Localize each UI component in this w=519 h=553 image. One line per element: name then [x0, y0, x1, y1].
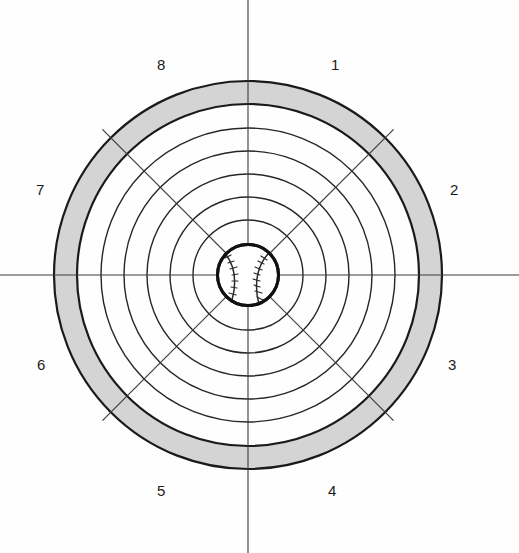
sector-label-6: 6 [37, 357, 45, 372]
sector-label-2-text: 2 [450, 182, 458, 197]
sector-label-7-text: 7 [36, 182, 44, 197]
sector-label-1: 1 [331, 57, 339, 72]
sector-label-7: 7 [36, 182, 44, 197]
sector-label-8: 8 [157, 57, 165, 72]
sector-label-5-text: 5 [157, 483, 165, 498]
sector-label-2: 2 [450, 182, 458, 197]
sector-label-4: 4 [328, 483, 336, 498]
target-diagram [0, 0, 519, 553]
sector-label-5: 5 [157, 483, 165, 498]
sector-label-3-text: 3 [448, 357, 456, 372]
sector-label-8-text: 8 [157, 57, 165, 72]
sector-label-1-text: 1 [331, 57, 339, 72]
sector-label-4-text: 4 [328, 483, 336, 498]
sector-label-6-text: 6 [37, 357, 45, 372]
sector-label-3: 3 [448, 357, 456, 372]
